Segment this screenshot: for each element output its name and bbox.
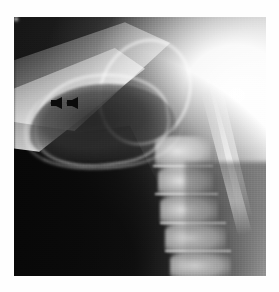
film-grain-overlay [14, 17, 266, 276]
lateral-cervical-radiograph [14, 17, 266, 276]
arrowhead-marker-2 [66, 97, 78, 109]
page-root [0, 0, 279, 292]
arrowhead-marker-1 [50, 97, 62, 109]
